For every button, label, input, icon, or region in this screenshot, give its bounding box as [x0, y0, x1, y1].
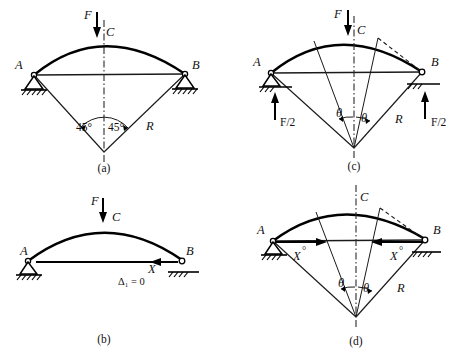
label-crown-b: C: [112, 210, 121, 224]
label-support-a-right: B: [192, 58, 200, 72]
chord-ab: [34, 74, 185, 75]
figure-sheet: F C A B 45° 45° R (a): [0, 0, 469, 354]
label-redundant-left-d: X °: [292, 245, 306, 263]
support-triangle-left: [20, 262, 37, 274]
label-force-c: F: [333, 7, 342, 21]
label-compat-b: Δ₁ = 0: [118, 276, 145, 287]
support-triangle-right: [176, 75, 194, 88]
label-radius-a: R: [145, 119, 154, 133]
label-angle-right-d: θ: [363, 281, 369, 295]
caption-a: (a): [98, 162, 111, 175]
label-support-c-right: B: [431, 55, 439, 69]
label-redundant-b: X: [147, 262, 157, 276]
label-support-b-left: A: [19, 244, 28, 258]
label-support-a-left: A: [14, 58, 23, 72]
caption-b: (b): [97, 333, 111, 346]
panel-b: F C A B X Δ₁ = 0 (b): [0, 177, 234, 354]
panel-c: F C A B F/2 F/2 θ θ R (c): [235, 0, 469, 177]
pin-dot-right: [419, 69, 425, 75]
label-support-b-right: B: [186, 244, 194, 258]
caption-d: (d): [349, 335, 363, 348]
arch-curve: [28, 233, 182, 261]
force-arrowhead: [99, 212, 107, 223]
chord-ab: [271, 72, 422, 73]
label-crown-c: C: [357, 23, 366, 37]
label-radius-c: R: [394, 112, 403, 126]
radius-right: [104, 74, 185, 152]
label-angle-right-c: θ: [361, 111, 367, 125]
label-radius-d: R: [396, 281, 405, 295]
panel-d: C A B X ° X ° θ θ R (d): [235, 177, 469, 354]
radius-left: [34, 75, 104, 152]
support-left: [21, 72, 47, 95]
radial-line-left: [314, 41, 354, 148]
caption-c: (c): [348, 160, 361, 173]
label-support-c-left: A: [252, 55, 261, 69]
label-redundant-right-sup: °: [399, 245, 403, 256]
radial-line-left: [316, 212, 356, 317]
label-force-b: F: [90, 194, 99, 208]
arch-curve: [34, 46, 185, 75]
radial-line-right: [356, 208, 380, 317]
force-arrowhead: [93, 27, 101, 38]
label-angle-left-d: θ: [338, 276, 344, 290]
pin-dot-right: [179, 258, 185, 264]
label-redundant-left-base: X: [292, 249, 302, 263]
force-arrowhead: [344, 25, 352, 36]
label-reaction-right-c: F/2: [431, 116, 447, 128]
panel-a: F C A B 45° 45° R (a): [0, 0, 234, 177]
label-angle-right-a: 45°: [108, 121, 125, 133]
label-angle-left-a: 45°: [76, 121, 93, 133]
chord-ab: [273, 240, 425, 241]
pin-dot-right: [422, 237, 428, 243]
label-force-a: F: [83, 8, 92, 22]
label-angle-left-c: θ: [336, 106, 342, 120]
support-triangle-left: [263, 74, 280, 86]
arch-curve: [271, 45, 422, 73]
radial-line-right: [354, 38, 378, 148]
label-support-d-left: A: [256, 223, 265, 237]
label-support-d-right: B: [433, 223, 441, 237]
redundant-left-arrowhead: [316, 238, 327, 246]
reaction-right-arrowhead: [421, 91, 429, 102]
support-triangle-left: [265, 242, 282, 254]
label-crown-d: C: [360, 190, 369, 204]
reaction-left-arrowhead: [271, 92, 279, 103]
label-redundant-right-d: X °: [389, 245, 403, 263]
label-crown-a: C: [106, 25, 115, 39]
label-redundant-right-base: X: [389, 249, 399, 263]
label-reaction-left-c: F/2: [280, 116, 296, 128]
label-redundant-left-sup: °: [302, 245, 306, 256]
arch-curve: [273, 214, 425, 241]
